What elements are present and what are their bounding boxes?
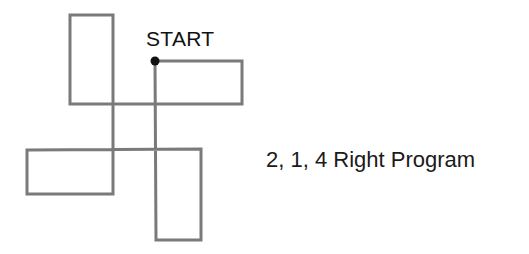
start-dot bbox=[151, 57, 160, 66]
start-label: START bbox=[146, 27, 214, 51]
spiral-path-figure bbox=[0, 0, 529, 254]
figure-caption: 2, 1, 4 Right Program bbox=[266, 147, 475, 173]
